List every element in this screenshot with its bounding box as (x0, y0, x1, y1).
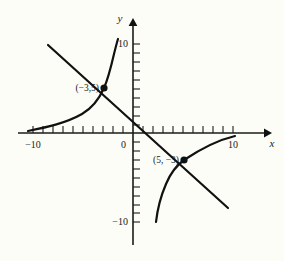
x-axis-label: x (269, 137, 275, 149)
x-tick-label-zero: 0 (121, 139, 126, 150)
x-tick-label-neg10: −10 (25, 139, 41, 150)
point-label-lower-right: (5, −3) (153, 155, 179, 166)
y-tick-label-neg10: −10 (112, 216, 128, 227)
y-tick-label-pos10: 10 (118, 38, 128, 49)
x-tick-label-pos10: 10 (228, 139, 238, 150)
point-label-upper-left: (−3,5) (75, 83, 99, 94)
coordinate-plane-figure: y x −10 0 10 10 −10 (−3,5) (5, −3) (0, 0, 284, 261)
intersection-point-marker-lower (180, 156, 187, 163)
intersection-point-marker-upper (100, 84, 107, 91)
y-axis-label: y (117, 12, 123, 24)
